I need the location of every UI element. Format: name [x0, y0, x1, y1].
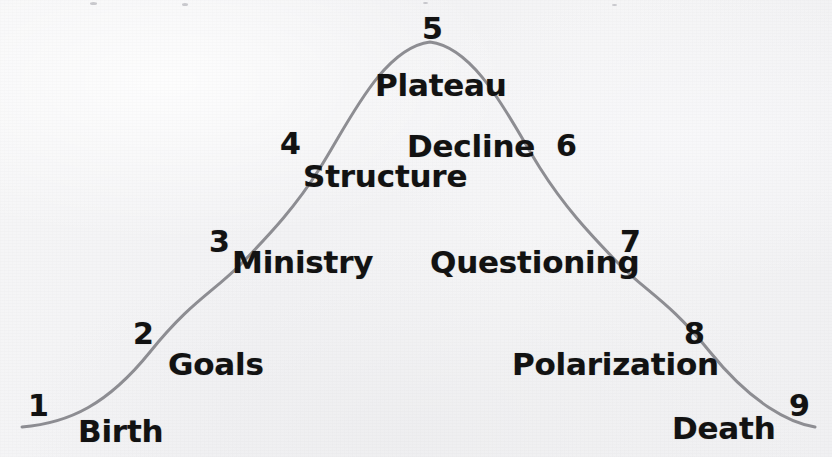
stage-label-polarization: Polarization: [512, 349, 719, 380]
stage-number-3: 3: [209, 227, 230, 257]
stage-number-4: 4: [280, 129, 301, 159]
stage-number-1: 1: [28, 391, 49, 421]
stage-number-5: 5: [422, 14, 443, 44]
stage-number-8: 8: [684, 319, 705, 349]
stage-label-death: Death: [672, 413, 776, 444]
stage-label-questioning: Questioning: [430, 247, 639, 278]
bell-curve-figure: 1 Birth 2 Goals 3 Ministry 4 Structure 5…: [0, 0, 832, 457]
stage-label-decline: Decline: [407, 131, 535, 162]
stage-label-birth: Birth: [78, 416, 163, 447]
stage-number-6: 6: [556, 131, 577, 161]
stage-label-plateau: Plateau: [375, 70, 507, 101]
stage-label-structure: Structure: [303, 161, 467, 192]
stage-label-goals: Goals: [168, 349, 264, 380]
stage-number-2: 2: [133, 319, 154, 349]
stage-number-9: 9: [789, 391, 810, 421]
stage-label-ministry: Ministry: [232, 247, 373, 278]
